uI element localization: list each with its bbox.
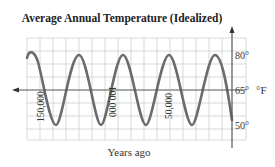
y-tick-80: 80° [235,50,249,61]
temperature-chart: Average Annual Temperature (Idealized) 8… [0,0,275,167]
y-tick-65: 65° [235,85,249,96]
x-axis-label: Years ago [107,146,151,158]
grid [27,38,246,140]
temperature-curve [27,52,232,125]
x-annotation-150000: 150,000 [36,91,46,122]
y-axis-unit: °F [256,84,267,96]
left-arrow-icon [12,88,19,93]
x-annotation-100000: 100,000 [107,86,117,117]
up-arrow-icon [230,26,235,33]
y-tick-50: 50° [235,120,249,131]
x-annotation-50000: 50,000 [164,93,174,119]
chart-title: Average Annual Temperature (Idealized) [22,12,223,25]
